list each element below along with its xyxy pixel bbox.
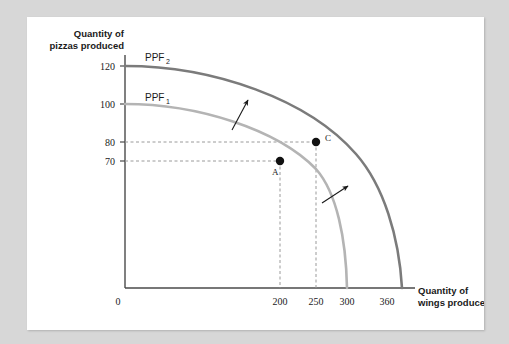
data-point-c[interactable] (312, 138, 320, 146)
ppf1-curve-label-subscript: 1 (166, 98, 170, 105)
data-point-a[interactable] (276, 157, 284, 165)
x-tick-label-0: 0 (116, 296, 121, 307)
x-tick-label-360: 360 (380, 296, 395, 307)
x-tick-label-250: 250 (309, 296, 324, 307)
figure-card: Quantity of pizzas produced Quantity of … (27, 17, 484, 330)
y-axis-title-line2: pizzas produced (50, 40, 125, 51)
ppf2-curve-label: PPF (145, 52, 164, 63)
lower-shift-arrow (322, 186, 348, 203)
y-tick-label-70: 70 (105, 156, 115, 167)
y-tick-label-100: 100 (100, 99, 115, 110)
x-axis-title-line1: Quantity of (418, 285, 469, 296)
y-tick-label-80: 80 (105, 137, 115, 148)
ppf1-curve (125, 104, 347, 288)
data-point-c-label: C (325, 133, 331, 143)
x-tick-label-300: 300 (340, 296, 355, 307)
x-axis-title-line2: wings produced (417, 297, 484, 308)
y-tick-label-120: 120 (100, 61, 115, 72)
ppf-chart: Quantity of pizzas produced Quantity of … (27, 17, 484, 330)
x-tick-label-200: 200 (273, 296, 288, 307)
ppf2-curve-label-subscript: 2 (166, 58, 170, 65)
y-axis-title-line1: Quantity of (74, 28, 125, 39)
ppf1-curve-label: PPF (145, 92, 164, 103)
data-point-a-label: A (272, 167, 279, 177)
